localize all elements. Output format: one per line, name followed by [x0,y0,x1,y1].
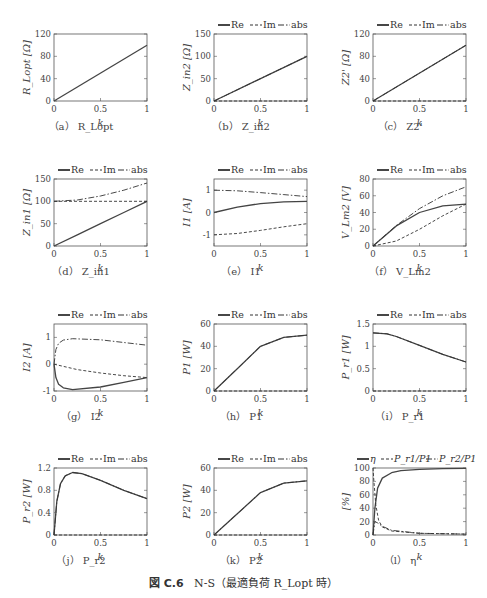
svg-text:0: 0 [365,96,370,106]
svg-text:150: 150 [195,29,211,39]
svg-text:η: η [370,453,376,464]
svg-text:abs: abs [131,164,148,175]
svg-text:80: 80 [359,476,370,486]
svg-text:Z_in2 [Ω]: Z_in2 [Ω] [181,44,193,92]
svg-text:40: 40 [40,74,51,84]
svg-text:Re: Re [390,309,403,320]
plot-frame [54,34,147,101]
svg-text:80: 80 [359,51,370,61]
svg-text:0: 0 [206,96,211,106]
svg-text:0.5: 0.5 [254,394,268,404]
svg-text:[%]: [%] [340,493,351,510]
subfigure-caption: （f） V_Lm2 [319,263,481,278]
svg-text:40: 40 [359,74,370,84]
svg-text:Im: Im [103,164,116,175]
svg-text:I2 [A]: I2 [A] [21,343,32,373]
chart-panel-g: ReImabs-10100.51kI2 [A]（g） I2 [0,290,162,435]
chart-panel-h: ReImabs020406000.51kP1 [W]（h） P1 [160,290,322,435]
svg-text:1: 1 [304,538,309,548]
svg-text:0: 0 [46,96,51,106]
svg-text:1: 1 [144,249,149,259]
svg-text:150: 150 [35,174,51,184]
svg-text:abs: abs [450,164,467,175]
chart-e: ReImabs-10100.51kI1 [A] [160,145,322,270]
svg-text:Im: Im [422,19,435,30]
svg-text:20: 20 [359,224,370,234]
svg-text:120: 120 [35,29,51,39]
svg-text:1.2: 1.2 [37,463,51,473]
subfigure-caption: （d） Z_in1 [0,263,162,278]
svg-text:20: 20 [359,517,370,527]
svg-text:0: 0 [46,530,51,540]
svg-text:0.5: 0.5 [254,104,268,114]
svg-text:40: 40 [200,485,211,495]
svg-text:Re: Re [71,164,84,175]
legend: ReImabs [58,309,148,320]
svg-text:abs: abs [450,19,467,30]
svg-text:P_r2/P1: P_r2/P1 [438,453,476,465]
chart-l: ηP_r1/P1P_r2/P102040608010000.51k[%] [319,434,481,559]
svg-text:P_r1 [W]: P_r1 [W] [340,335,352,380]
svg-text:1: 1 [304,394,309,404]
svg-text:1: 1 [46,332,51,342]
plot-frame [373,34,466,101]
svg-text:60: 60 [359,191,370,201]
svg-text:P_r2 [W]: P_r2 [W] [21,479,33,524]
svg-text:Im: Im [422,309,435,320]
svg-text:0.5: 0.5 [413,538,427,548]
svg-text:60: 60 [359,490,370,500]
svg-text:abs: abs [291,19,308,30]
svg-text:100: 100 [354,463,370,473]
svg-text:0.5: 0.5 [356,364,370,374]
svg-text:0: 0 [51,104,56,114]
svg-text:Z2' [Ω]: Z2' [Ω] [340,50,351,86]
plot-frame [214,179,307,246]
svg-text:0: 0 [206,208,211,218]
chart-panel-a: 0408012000.51kR_Lopt [Ω]（a） R_Lopt [0,0,162,145]
chart-g: ReImabs-10100.51kI2 [A] [0,290,162,415]
svg-text:Re: Re [71,309,84,320]
svg-text:0: 0 [370,104,375,114]
svg-text:80: 80 [359,174,370,184]
subfigure-caption: （g） I2 [0,408,162,423]
svg-text:100: 100 [195,51,211,61]
chart-f: ReImabs02040608000.51kV_Lm2 [V] [319,145,481,270]
plot-frame [373,468,466,535]
svg-text:0.5: 0.5 [254,538,268,548]
svg-text:120: 120 [354,29,370,39]
subfigure-caption: （k） P2 [160,552,322,567]
svg-text:0: 0 [211,104,216,114]
svg-text:1: 1 [304,104,309,114]
svg-text:0: 0 [51,249,56,259]
svg-text:0: 0 [51,538,56,548]
svg-text:1: 1 [144,538,149,548]
svg-text:0.5: 0.5 [94,394,108,404]
chart-panel-j: ReImabs00.40.81.200.51kP_r2 [W]（j） P_r2 [0,434,162,579]
svg-text:1: 1 [463,249,468,259]
chart-panel-e: ReImabs-10100.51kI1 [A]（e） I1 [160,145,322,290]
legend: ReImabs [377,19,467,30]
svg-text:0.4: 0.4 [37,508,51,518]
svg-text:Z_in1 [Ω]: Z_in1 [Ω] [21,189,33,237]
svg-text:0.5: 0.5 [413,104,427,114]
svg-text:abs: abs [131,309,148,320]
svg-text:P2 [W]: P2 [W] [181,484,192,519]
svg-text:1: 1 [144,394,149,404]
svg-text:1: 1 [144,104,149,114]
svg-text:abs: abs [291,453,308,464]
svg-text:V_Lm2 [V]: V_Lm2 [V] [340,186,352,239]
legend: ReImabs [218,164,308,175]
svg-text:1: 1 [206,185,211,195]
svg-text:0.8: 0.8 [37,485,51,495]
svg-text:abs: abs [291,309,308,320]
svg-text:40: 40 [359,208,370,218]
svg-text:50: 50 [200,74,211,84]
legend: ReImabs [58,453,148,464]
subfigure-caption: （a） R_Lopt [0,118,162,133]
chart-c: ReImabs0408012000.51kZ2' [Ω] [319,0,481,125]
legend: ReImabs [377,309,467,320]
figure-caption: 図 C.6 N-S（最適負荷 R_Lopt 時） [0,574,487,590]
svg-text:abs: abs [131,453,148,464]
svg-text:0: 0 [365,241,370,251]
svg-text:40: 40 [200,341,211,351]
